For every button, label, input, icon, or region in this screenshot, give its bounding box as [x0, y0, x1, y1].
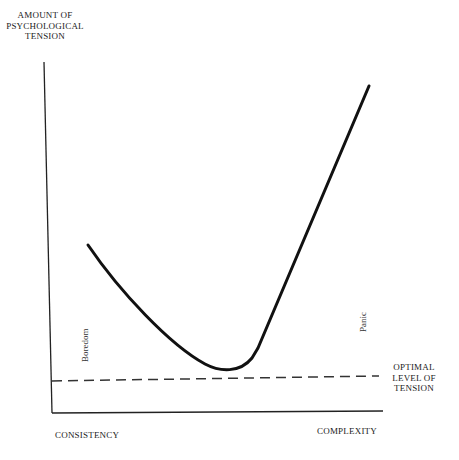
y-axis-label: AMOUNT OF PSYCHOLOGICAL TENSION	[0, 10, 90, 42]
x-axis-label-complexity: COMPLEXITY	[317, 426, 377, 437]
y-axis-label-line-1: AMOUNT OF	[0, 10, 90, 21]
boredom-annotation: Boredom	[80, 329, 90, 363]
tension-curve	[88, 86, 369, 370]
optimal-level-line	[52, 376, 379, 381]
optimal-label-line-1: OPTIMAL	[384, 362, 444, 373]
x-axis-label-consistency: CONSISTENCY	[55, 430, 119, 441]
y-axis	[44, 62, 52, 413]
panic-annotation: Panic	[358, 312, 368, 332]
y-axis-label-line-2: PSYCHOLOGICAL	[0, 21, 90, 32]
optimal-label-line-2: LEVEL OF	[384, 373, 444, 384]
y-axis-label-line-3: TENSION	[0, 31, 90, 42]
x-axis	[52, 411, 383, 413]
optimal-level-label: OPTIMAL LEVEL OF TENSION	[384, 362, 444, 394]
optimal-label-line-3: TENSION	[384, 383, 444, 394]
